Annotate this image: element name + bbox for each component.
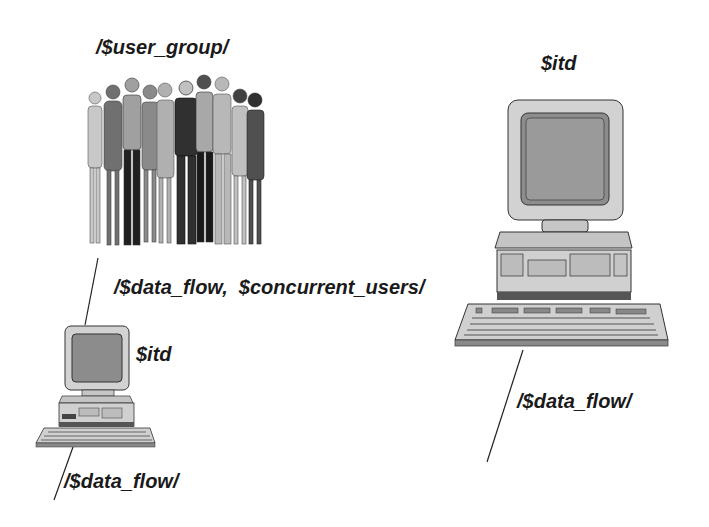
itd-label-large: $itd xyxy=(541,52,577,75)
edge-user-to-small xyxy=(85,258,98,325)
user-group-label: /$user_group/ xyxy=(96,36,228,59)
desktop-computer-icon-large xyxy=(455,100,668,346)
edge-label-data-flow-small: /$data_flow/ xyxy=(64,470,178,493)
edge-label-data-flow-large: /$data_flow/ xyxy=(517,390,631,413)
diagram-canvas xyxy=(0,0,709,527)
edge-label-data-flow-concurrent-users: /$data_flow, $concurrent_users/ xyxy=(114,276,424,299)
itd-label-small: $itd xyxy=(136,343,172,366)
people-group-icon xyxy=(88,75,264,245)
